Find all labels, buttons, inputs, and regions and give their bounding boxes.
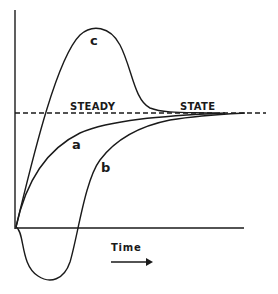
curve-a-label: a bbox=[72, 137, 81, 152]
steady-label: STEADY bbox=[70, 101, 116, 112]
state-label: STATE bbox=[180, 101, 215, 112]
response-diagram: STEADY STATE c a b Time bbox=[0, 0, 278, 294]
time-label: Time bbox=[111, 242, 142, 253]
curve-c-label: c bbox=[90, 33, 98, 48]
curve-b bbox=[16, 113, 245, 280]
time-arrow-icon bbox=[111, 258, 153, 266]
curve-a bbox=[16, 113, 225, 227]
curve-c bbox=[16, 28, 215, 227]
curve-b-label: b bbox=[101, 160, 110, 175]
